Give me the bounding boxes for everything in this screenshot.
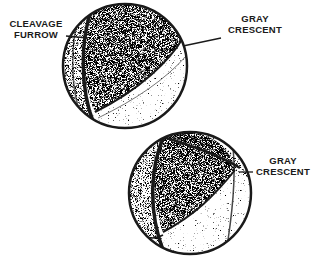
bottom-egg [125,130,255,260]
cleavage-furrow-label: CLEAVAGE FURROW [4,18,68,40]
gray-crescent-top-label: GRAY CRESCENT [222,13,288,35]
label-line: CLEAVAGE [4,18,68,29]
label-line: GRAY [250,155,316,166]
label-line: FURROW [4,29,68,40]
gray-crescent-top-leader [183,38,221,46]
label-line: GRAY [222,13,288,24]
gray-crescent-bottom-label: GRAY CRESCENT [250,155,316,177]
egg-diagram [0,0,316,267]
label-line: CRESCENT [250,166,316,177]
label-line: CRESCENT [222,24,288,35]
